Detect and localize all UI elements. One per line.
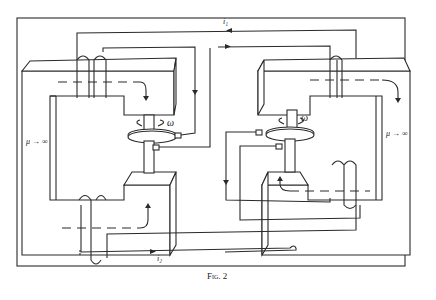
- left-faraday-disc: ω: [128, 115, 181, 173]
- permeability-label-right: μ → ∞: [385, 129, 408, 138]
- diagram-canvas: ω ω: [0, 0, 436, 300]
- omega-label-left: ω: [167, 117, 174, 128]
- left-brush-axle: [153, 145, 159, 150]
- figure-caption: Fig. 2: [207, 271, 227, 281]
- right-brush-rim: [256, 130, 262, 135]
- current-label-i2: i₂: [157, 254, 162, 263]
- right-faraday-disc: ω: [256, 110, 314, 172]
- omega-label-right: ω: [301, 112, 308, 123]
- right-brush-axle: [276, 144, 282, 149]
- left-brush-rim: [175, 133, 181, 138]
- right-electromagnet: [258, 56, 410, 255]
- diagram-figure: ω ω: [0, 0, 436, 300]
- permeability-label-left: μ → ∞: [25, 137, 48, 146]
- current-label-i1: i₁: [223, 17, 228, 26]
- arrow-i1: [226, 28, 232, 33]
